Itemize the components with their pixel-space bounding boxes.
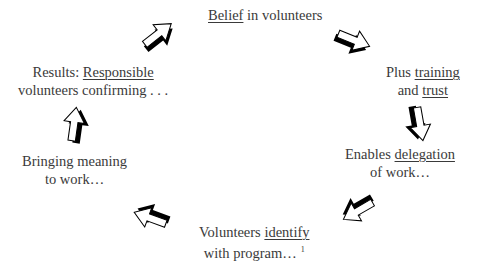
node-delegation-prefix: Enables (345, 146, 395, 162)
node-training-underlined: training (415, 64, 460, 80)
node-belief-underlined: Belief (208, 7, 243, 23)
node-delegation: Enables delegation of work… (345, 145, 455, 181)
node-meaning-line2: to work… (45, 171, 104, 187)
node-belief: Belief in volunteers (208, 6, 322, 24)
node-meaning: Bringing meaning to work… (22, 152, 127, 188)
arrow-up-right-icon (136, 20, 180, 48)
node-training-prefix: Plus (386, 64, 415, 80)
node-training: Plus training and trust (386, 63, 460, 99)
node-identify-line2: with program… (204, 245, 297, 261)
footnote-marker: 1 (301, 245, 305, 254)
node-meaning-line1: Bringing meaning (22, 153, 127, 169)
node-results: Results: Responsible volunteers confirmi… (18, 63, 168, 99)
node-delegation-line2: of work… (370, 164, 430, 180)
node-delegation-underlined: delegation (395, 146, 455, 162)
node-trust-prefix: and (398, 82, 423, 98)
node-results-prefix: Results: (32, 64, 82, 80)
arrow-up-icon (52, 110, 96, 138)
node-belief-text: in volunteers (243, 7, 322, 23)
node-results-line2: volunteers confirming . . . (18, 82, 168, 98)
arrow-down-right-icon (332, 26, 376, 54)
node-results-underlined: Responsible (83, 64, 154, 80)
node-identify-underlined: identify (264, 224, 309, 240)
node-trust-underlined: trust (422, 82, 448, 98)
arrow-left-icon (128, 204, 172, 232)
arrow-down-icon (398, 110, 442, 138)
arrow-down-left-icon (336, 197, 380, 225)
node-identify-prefix: Volunteers (199, 224, 264, 240)
node-identify: Volunteers identify with program…1 (199, 223, 310, 262)
